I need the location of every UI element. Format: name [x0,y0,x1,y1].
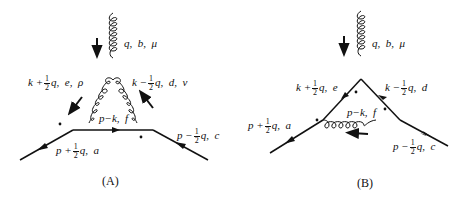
momentum-suffix: q, [201,129,209,141]
fraction: 12 [410,139,416,156]
label-internal-a: p−k, f [99,113,128,124]
momentum-prefix: k − [385,81,400,93]
arrow-left-b [285,136,295,144]
fraction: 12 [44,75,50,92]
momentum-prefix: k + [296,81,311,93]
label-right-line-b: k −12q, d [385,80,427,97]
color-index: a [285,119,291,131]
momentum-q: q, [124,37,132,49]
lorentz-index: μ [400,37,406,49]
lorentz-index: ν [183,76,188,88]
momentum-arrow-internal-b [352,133,368,134]
fraction: 12 [312,80,318,97]
internal-gluon-b [323,120,376,128]
momentum-suffix: q, [272,119,280,131]
momentum-arrow-left-a [72,97,82,110]
momentum-prefix: k − [132,76,147,88]
label-incoming-right-a: p −12q, c [177,128,219,145]
label-external-gluon-a: q, b, μ [124,38,157,49]
denominator: 2 [265,127,271,135]
momentum: p−k, [99,112,120,124]
momentum-prefix: k + [28,76,43,88]
dot-right-b [384,108,387,111]
momentum-suffix: q, [319,81,327,93]
color-index: e, [65,76,73,88]
color-index: c [430,140,435,152]
arrow-left-a [37,143,48,151]
fraction: 12 [194,128,200,145]
momentum-arrow-right-a [143,95,153,108]
color-index: e [333,81,338,93]
momentum-suffix: q, [155,76,163,88]
color-index: f [373,106,376,118]
label-right-gluon-a: k −12q, d, ν [132,75,187,92]
momentum-q: q, [372,37,380,49]
label-external-gluon-b: q, b, μ [372,38,405,49]
fraction: 12 [73,143,79,160]
momentum-suffix: q, [417,140,425,152]
dot-left-a [59,123,62,126]
color-index: f [125,112,128,124]
denominator: 2 [194,137,200,145]
label-outgoing-left-a: p +12q, a [56,143,99,160]
label-left-gluon-a: k +12q, e, ρ [28,75,83,92]
denominator: 2 [73,152,79,160]
lorentz-index: ρ [78,76,83,88]
momentum-prefix: p − [177,129,193,141]
momentum-suffix: q, [80,144,88,156]
momentum-suffix: q, [408,81,416,93]
fraction: 12 [265,118,271,135]
fraction: 12 [401,80,407,97]
dot-top-b [355,91,358,94]
denominator: 2 [312,89,318,97]
color-index: a [93,144,99,156]
denominator: 2 [410,148,416,156]
color-index: d, [169,76,177,88]
denominator: 2 [44,84,50,92]
momentum-suffix: q, [51,76,59,88]
color-index: c [214,129,219,141]
color-index: d [422,81,428,93]
dot-left-b [316,119,319,122]
lorentz-index: μ [152,37,158,49]
label-left-line-b: k +12q, e [296,80,338,97]
dot-right-a [140,136,143,139]
caption-a: (A) [102,174,119,189]
caption-b: (B) [357,176,373,191]
denominator: 2 [148,84,154,92]
arrow-internal-a [112,127,120,133]
color-index: b, [386,37,394,49]
feynman-diagrams [0,0,462,197]
color-index: b, [138,37,146,49]
label-outgoing-left-b: p +12q, a [248,118,291,135]
momentum-prefix: p − [393,140,409,152]
momentum-prefix: p + [56,144,72,156]
label-incoming-right-b: p −12q, c [393,139,435,156]
external-gluon-b [357,11,365,56]
momentum-prefix: p + [248,119,264,131]
external-gluon-a [109,13,117,58]
momentum: p−k, [347,106,368,118]
fraction: 12 [148,75,154,92]
denominator: 2 [401,89,407,97]
label-internal-gluon-b: p−k, f [347,107,376,118]
